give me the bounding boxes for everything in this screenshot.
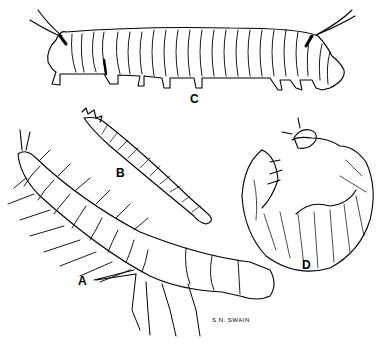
- label-d: D: [302, 258, 311, 272]
- larva-a: [8, 130, 274, 336]
- label-c: C: [190, 92, 199, 106]
- artist-signature: S.N. SWAIN: [212, 317, 250, 323]
- label-a: A: [78, 274, 87, 288]
- illustration-canvas: C B A D S.N. SWAIN: [0, 0, 380, 346]
- caterpillar-c: [30, 10, 355, 90]
- grub-d: [242, 118, 373, 271]
- label-b: B: [116, 166, 125, 180]
- larva-b: [82, 108, 211, 224]
- larvae-drawing: [0, 0, 380, 346]
